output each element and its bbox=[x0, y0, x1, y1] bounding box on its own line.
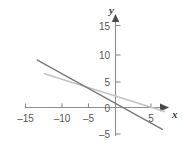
x-axis bbox=[25, 104, 169, 112]
y-axis bbox=[112, 14, 119, 136]
graph-figure: –15 –10 –5 5 15 10 5 0 –5 y x bbox=[0, 0, 182, 148]
y-tick-label-15: 15 bbox=[99, 21, 111, 32]
y-tick-label-0: 0 bbox=[104, 103, 110, 114]
x-tick-label-5: 5 bbox=[148, 113, 154, 124]
coordinate-plane-chart: –15 –10 –5 5 15 10 5 0 –5 y x bbox=[0, 0, 182, 148]
x-tick-label--15: –15 bbox=[17, 113, 34, 124]
y-tick-label-10: 10 bbox=[99, 50, 111, 61]
x-tick-label--10: –10 bbox=[54, 113, 71, 124]
y-axis-ticks bbox=[116, 26, 121, 135]
y-tick-label-5: 5 bbox=[104, 77, 110, 88]
x-tick-label--5: –5 bbox=[83, 113, 95, 124]
y-axis-label: y bbox=[107, 4, 114, 16]
x-axis-label: x bbox=[171, 108, 178, 120]
y-tick-label--5: –5 bbox=[99, 129, 111, 140]
